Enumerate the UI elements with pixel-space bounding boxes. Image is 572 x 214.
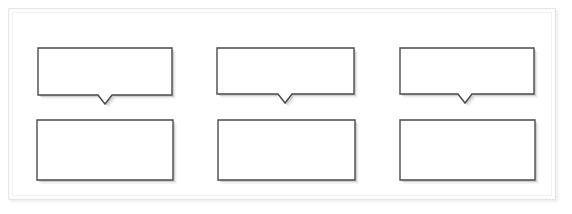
shape-outline — [400, 120, 535, 180]
shape-outline — [218, 120, 355, 180]
shape-outline — [37, 120, 173, 180]
rectangle-shape-3[interactable] — [394, 114, 541, 186]
shape-layer — [0, 0, 572, 214]
rectangle-shape-1[interactable] — [31, 114, 179, 186]
callout-shape-2[interactable] — [211, 42, 360, 109]
rectangle-shape-2[interactable] — [212, 114, 361, 186]
shape-outline — [38, 48, 172, 104]
diagram-canvas — [0, 0, 572, 214]
callout-shape-1[interactable] — [32, 42, 178, 110]
callout-shape-3[interactable] — [394, 42, 540, 109]
